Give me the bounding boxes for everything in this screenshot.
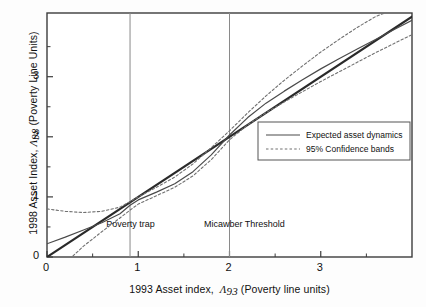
x-axis-symbol: Λ [220, 283, 227, 295]
legend-label-expected-asset-dynamics: Expected asset dynamics [306, 130, 402, 140]
legend-label-confidence-bands: 95% Confidence bands [306, 144, 394, 154]
x-axis-title: 1993 Asset index, Λ93 (Poverty line unit… [47, 283, 412, 297]
x-axis-title-main: 1993 Asset index, [129, 283, 214, 295]
chart-figure: Expected asset dynamics 95% Confidence b… [0, 0, 426, 307]
x-tick-label-1: 1 [134, 261, 140, 273]
y-tick-label-3: 3 [33, 69, 39, 81]
y-tick-label-1: 1 [33, 189, 39, 201]
y-tick-label-2: 2 [33, 129, 39, 141]
x-axis-title-units: (Poverty line units) [241, 283, 330, 295]
y-tick-label-0: 0 [33, 249, 39, 261]
x-tick-label-0: 0 [43, 261, 49, 273]
x-tick-label-2: 2 [226, 261, 232, 273]
annotation-poverty-trap: Poverty trap [106, 219, 155, 229]
legend-box [258, 122, 410, 160]
annotation-micawber-threshold: Micawber Threshold [204, 219, 285, 229]
x-tick-label-3: 3 [317, 261, 323, 273]
x-axis-symbol-subscript: 93 [227, 285, 238, 297]
